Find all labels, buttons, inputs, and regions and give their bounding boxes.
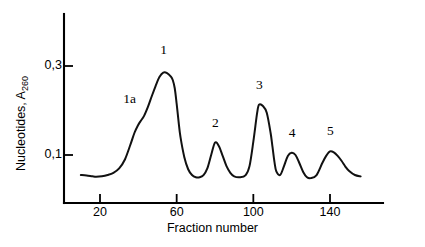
- x-tick-marks: [100, 194, 330, 203]
- x-tick-label: 20: [80, 206, 120, 219]
- peak-label-1a: 1a: [123, 92, 136, 106]
- peak-label-2: 2: [212, 116, 219, 130]
- y-tick-marks: [64, 66, 73, 155]
- peak-label-1: 1: [160, 43, 167, 57]
- y-tick-label: 0,1: [36, 148, 62, 161]
- peak-label-3: 3: [256, 78, 263, 92]
- x-tick-label: 100: [233, 206, 273, 219]
- y-tick-label: 0,3: [36, 59, 62, 72]
- x-tick-label: 60: [157, 206, 197, 219]
- x-axis-title: Fraction number: [0, 222, 425, 235]
- absorbance-trace: [81, 72, 361, 178]
- chromatogram-figure: 0,10,3 2060100140 1a12345 Nucleotides, A…: [0, 0, 425, 247]
- x-tick-label: 140: [310, 206, 350, 219]
- peak-label-4: 4: [289, 126, 296, 140]
- peak-label-5: 5: [327, 124, 334, 138]
